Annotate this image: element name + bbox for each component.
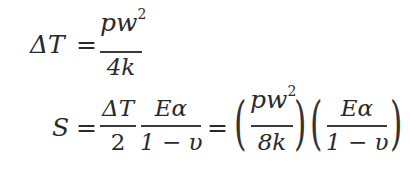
eq1-equals: = <box>76 32 97 57</box>
eq1-numerator: pw2 <box>100 10 142 35</box>
eq2-frac2-bar <box>141 125 201 127</box>
eq2-frac1-bar <box>100 125 136 127</box>
eq2-group1-open-paren: ( <box>234 94 246 152</box>
eq2-group2-close-paren: ) <box>390 94 402 152</box>
eq2-group1-numerator-base: pw <box>250 85 287 114</box>
eq2-frac1-denominator: 2 <box>99 131 137 154</box>
eq1-numerator-exponent: 2 <box>137 6 146 22</box>
eq2-group2-open-paren: ( <box>310 94 322 152</box>
eq2-lhs: S <box>52 115 69 140</box>
eq2-group1-bar <box>251 125 293 127</box>
eq2-equals-2: = <box>207 115 228 140</box>
eq1-lhs: ΔT <box>30 32 65 57</box>
eq1-numerator-base: pw <box>100 8 137 37</box>
eq1-fraction-bar <box>100 51 142 53</box>
eq2-group2-denominator: 1 − υ <box>326 131 388 154</box>
eq2-group1-numerator: pw2 <box>250 87 294 112</box>
eq2-equals: = <box>76 115 97 140</box>
eq2-group2-numerator: Eα <box>326 97 388 120</box>
eq2-frac2-denominator: 1 − υ <box>140 131 202 154</box>
eq2-frac1-numerator: ΔT <box>99 97 137 120</box>
eq2-frac2-numerator: Eα <box>140 97 202 120</box>
eq1-denominator: 4k <box>100 56 142 79</box>
eq2-group2-bar <box>327 125 387 127</box>
eq2-group1-close-paren: ) <box>294 94 306 152</box>
eq2-group1-denominator: 8k <box>250 131 294 154</box>
